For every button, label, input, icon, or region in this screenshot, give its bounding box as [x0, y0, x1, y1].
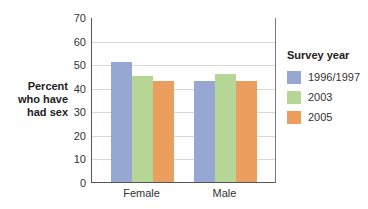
legend-swatch [287, 91, 301, 104]
y-tick-label: 20 [56, 130, 86, 142]
y-tick-label: 0 [56, 177, 86, 189]
y-tick-label: 30 [56, 106, 86, 118]
legend-item: 1996/1997 [287, 67, 360, 87]
y-tick-label: 70 [56, 12, 86, 24]
legend-item: 2003 [287, 87, 360, 107]
y-tick-label: 10 [56, 153, 86, 165]
bar-male-1996-1997 [194, 81, 215, 182]
y-tick-label: 50 [56, 59, 86, 71]
bar-female-2003 [132, 76, 153, 182]
legend: Survey year 1996/199720032005 [287, 49, 360, 127]
legend-label: 2003 [308, 91, 332, 103]
y-tick-label: 40 [56, 83, 86, 95]
legend-swatch [287, 111, 301, 124]
y-tick-label: 60 [56, 36, 86, 48]
x-category-label: Male [195, 187, 255, 199]
y-axis-label-line-2: who have [0, 93, 68, 106]
bar-male-2003 [215, 74, 236, 182]
legend-title: Survey year [287, 49, 360, 61]
x-category-label: Female [112, 187, 172, 199]
gridline [92, 42, 275, 43]
plot-area [91, 18, 276, 183]
bar-female-2005 [153, 81, 174, 182]
legend-label: 2005 [308, 111, 332, 123]
bar-female-1996-1997 [111, 62, 132, 182]
legend-label: 1996/1997 [308, 71, 360, 83]
legend-items: 1996/199720032005 [287, 67, 360, 127]
bar-male-2005 [236, 81, 257, 182]
legend-swatch [287, 71, 301, 84]
legend-item: 2005 [287, 107, 360, 127]
